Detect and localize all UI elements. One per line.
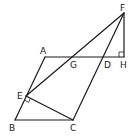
label-a: A [40,46,47,56]
label-c: C [70,123,76,133]
geometry-diagram: A B C D E F G H [0,0,138,140]
segment-ab [15,57,45,120]
segment-ec [26,96,73,120]
right-angle-mark-h [119,52,124,57]
label-h: H [120,60,127,70]
segment-cf [73,13,124,120]
label-e: E [17,91,23,101]
label-d: D [104,60,111,70]
label-b: B [9,123,15,133]
label-g: G [70,60,77,70]
label-f: F [120,3,125,13]
